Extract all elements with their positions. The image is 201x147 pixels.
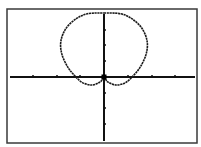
calculator-graph-screen [0,0,201,147]
origin-marker [102,75,107,80]
screen-background [0,0,201,147]
